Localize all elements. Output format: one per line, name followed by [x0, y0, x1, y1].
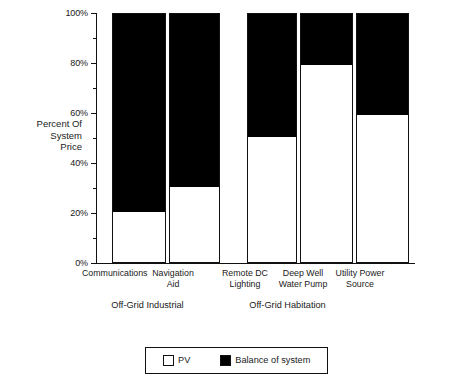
legend-swatch-balance-of-system-icon — [220, 355, 231, 366]
y-tick-mark — [93, 188, 97, 189]
legend-label-pv: PV — [178, 356, 190, 365]
y-tick-mark — [91, 163, 97, 164]
bar-segment-balance-of-system — [357, 14, 408, 117]
y-tick-mark — [91, 63, 97, 64]
bar-segment-pv — [248, 137, 296, 262]
y-tick-mark — [91, 13, 97, 14]
y-tick-label: 80% — [70, 59, 88, 68]
bar-communications — [112, 13, 166, 263]
x-label-utility-power-source: Utility Power Source — [325, 268, 395, 290]
bar-segment-pv — [113, 212, 165, 262]
y-tick-mark — [93, 238, 97, 239]
legend-item-pv: PV — [163, 355, 190, 366]
y-tick-label: 0% — [75, 259, 88, 268]
bar-segment-balance-of-system — [113, 14, 165, 214]
x-label-communications: Communications — [82, 268, 142, 279]
bar-utility-power-source — [356, 13, 409, 263]
x-label-remote-dc-lighting: Remote DC Lighting — [214, 268, 276, 290]
bar-segment-pv — [301, 65, 352, 263]
y-tick-label: 100% — [65, 9, 88, 18]
bar-segment-balance-of-system — [248, 14, 296, 139]
chart-figure: Percent Of System Price 100% 80% 60% 40%… — [0, 0, 454, 390]
y-tick-mark — [93, 38, 97, 39]
y-tick-mark — [93, 88, 97, 89]
y-tick-mark — [93, 138, 97, 139]
legend-label-balance-of-system: Balance of system — [235, 356, 310, 365]
y-tick-label: 40% — [70, 159, 88, 168]
group-label-off-grid-industrial: Off-Grid Industrial — [90, 300, 205, 311]
x-label-navigation-aid: Navigation Aid — [143, 268, 203, 290]
bar-segment-balance-of-system — [301, 14, 352, 67]
legend: PV Balance of system — [145, 347, 328, 374]
legend-swatch-pv-icon — [163, 355, 174, 366]
y-tick-label: 20% — [70, 209, 88, 218]
bar-segment-pv — [170, 187, 219, 262]
y-tick-mark — [91, 213, 97, 214]
legend-row: PV Balance of system — [146, 348, 327, 373]
y-tick-label: 60% — [70, 109, 88, 118]
bar-deep-well-water-pump — [300, 13, 353, 263]
group-label-off-grid-habitation: Off-Grid Habitation — [225, 300, 350, 311]
y-tick-mark — [91, 263, 97, 264]
bar-navigation-aid — [169, 13, 220, 263]
y-tick-mark — [91, 113, 97, 114]
bar-remote-dc-lighting — [247, 13, 297, 263]
y-axis-title: Percent Of System Price — [10, 118, 82, 153]
plot-area: 100% 80% 60% 40% 20% 0% — [96, 13, 415, 264]
bar-segment-balance-of-system — [170, 14, 219, 189]
legend-item-balance-of-system: Balance of system — [220, 355, 310, 366]
bar-segment-pv — [357, 115, 408, 263]
